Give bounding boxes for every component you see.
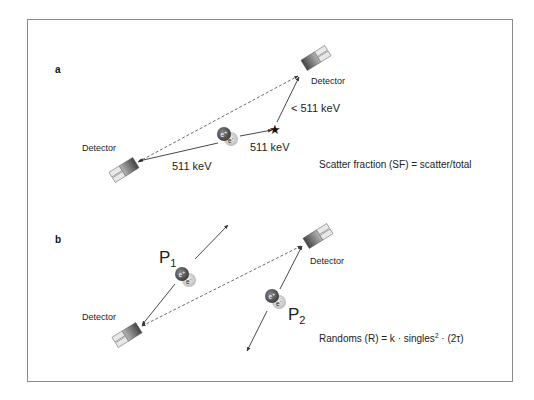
panel-b: b e+ e- e+ e- P1 P2 Detector: [55, 223, 464, 351]
annihilation-pair-p1: e+ e-: [175, 267, 196, 287]
energy-right-label: 511 keV: [250, 141, 290, 153]
detector-top-b-icon: [303, 223, 333, 248]
energy-scattered-label: < 511 keV: [291, 102, 341, 114]
detector-top-a-label: Detector: [311, 76, 345, 86]
panel-a-letter: a: [55, 64, 61, 75]
detector-top-a-icon: [301, 45, 331, 70]
energy-left-label: 511 keV: [172, 160, 212, 172]
figure-frame: [28, 20, 513, 382]
randoms-formula: Randoms (R) = k · singles2 · (2τ): [319, 332, 464, 344]
p1-photon-up: [195, 225, 228, 259]
p1-label: P1: [159, 248, 176, 269]
scatter-star-icon: ★: [269, 122, 281, 137]
photon-left-a: [139, 143, 218, 161]
detector-left-a-icon: [109, 157, 139, 182]
detector-left-b-label: Detector: [82, 312, 116, 322]
detector-left-a-label: Detector: [82, 143, 116, 153]
p2-photon-up: [280, 246, 302, 289]
panel-a: a ★ e+ e- Detector Detector < 511 keV 51…: [55, 45, 472, 182]
p1-photon-down: [142, 284, 175, 325]
detector-top-b-label: Detector: [310, 256, 344, 266]
pet-coincidence-diagram: a ★ e+ e- Detector Detector < 511 keV 51…: [0, 0, 534, 400]
scattered-photon: [277, 77, 299, 122]
p2-photon-down: [247, 311, 267, 351]
annihilation-pair-a: e+ e-: [217, 127, 238, 146]
panel-b-letter: b: [55, 234, 61, 245]
p2-label: P2: [288, 305, 305, 326]
detector-left-b-icon: [112, 322, 142, 347]
annihilation-pair-p2: e+ e-: [265, 289, 286, 309]
photon-right-a: [240, 130, 272, 136]
scatter-fraction-formula: Scatter fraction (SF) = scatter/total: [319, 159, 472, 170]
